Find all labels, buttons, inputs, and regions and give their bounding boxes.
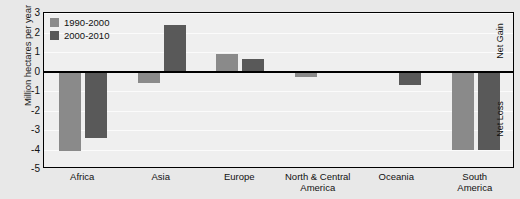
x-category-label: Oceania [357,171,436,182]
x-category-label: Africa [43,171,122,182]
bars-layer [44,13,513,167]
x-category-label: Europe [200,171,279,182]
bar [399,72,421,86]
legend-item: 2000-2010 [50,29,109,41]
y-tick-label: 3 [34,7,40,18]
legend-label: 2000-2010 [64,30,109,41]
chart-screenshot: Million hectares per year 3210-1-2-3-4-5… [0,0,520,199]
bar [164,25,186,72]
bar [478,72,500,150]
x-category-label: Asia [122,171,201,182]
y-tick-label: -1 [31,85,40,96]
x-category-label-line: America [279,182,358,193]
bar [138,72,160,84]
legend-swatch-icon [50,31,59,40]
bar [85,72,107,138]
y-tick-label: 2 [34,26,40,37]
x-category-label-line: South [436,171,515,182]
zero-axis-line [44,71,513,73]
bar [452,72,474,150]
x-category-label-line: Oceania [357,171,436,182]
plot-area [43,12,514,168]
y-tick-label: 1 [34,46,40,57]
y-axis-tick-labels: 3210-1-2-3-4-5 [22,12,40,168]
x-category-label: SouthAmerica [436,171,515,193]
bar [59,72,81,152]
x-category-label-line: Europe [200,171,279,182]
legend-item: 1990-2000 [50,16,109,28]
y-tick-label: -4 [31,143,40,154]
y-tick-label: -3 [31,124,40,135]
y-tick-label: -5 [31,163,40,174]
x-category-label-line: Africa [43,171,122,182]
bar [216,54,238,72]
x-axis-category-labels: AfricaAsiaEuropeNorth & CentralAmericaOc… [43,171,514,199]
y-tick-label: -2 [31,104,40,115]
x-category-label-line: Asia [122,171,201,182]
x-category-label-line: America [436,182,515,193]
y-tick-label: 0 [34,65,40,76]
chart-legend: 1990-20002000-2010 [50,16,109,42]
x-category-label-line: North & Central [279,171,358,182]
legend-swatch-icon [50,18,59,27]
x-category-label: North & CentralAmerica [279,171,358,193]
legend-label: 1990-2000 [64,17,109,28]
